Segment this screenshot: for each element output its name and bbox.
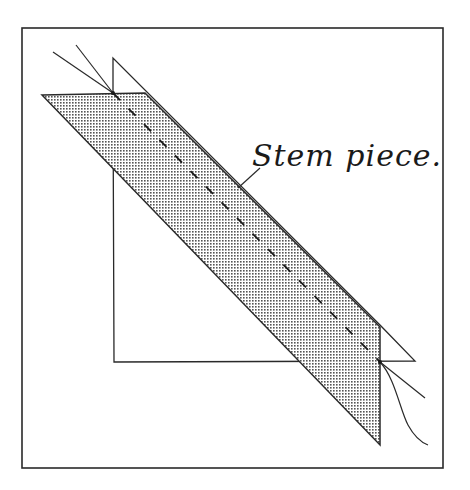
stem-piece-label: Stem piece. xyxy=(252,138,442,173)
top-cross-line-2 xyxy=(76,45,113,93)
quilt-block-diagram xyxy=(0,0,470,490)
top-cross-line-1 xyxy=(53,52,113,93)
top-cross-point xyxy=(111,91,115,95)
bottom-cross-line xyxy=(380,362,425,398)
bottom-curve-line xyxy=(380,362,428,445)
bottom-cross-point xyxy=(378,360,382,364)
